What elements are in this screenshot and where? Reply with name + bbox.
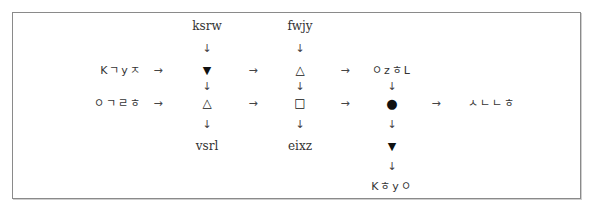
arrow-right-icon: →: [431, 98, 440, 109]
filled-circle-icon: ●: [386, 97, 397, 110]
input-top-col2: fwjy: [287, 20, 312, 32]
output-bottom-col2: eixz: [288, 140, 312, 152]
arrow-down-icon: ↓: [202, 81, 211, 92]
output-bottom-col1: vsrl: [196, 140, 219, 152]
arrow-right-icon: →: [153, 65, 162, 76]
arrow-right-icon: →: [248, 98, 257, 109]
arrow-right-icon: →: [340, 65, 349, 76]
hollow-square-icon: □: [294, 97, 305, 109]
output-row2-right: ㅅㄴㄴㅎ: [468, 98, 516, 109]
arrow-right-icon: →: [248, 65, 257, 76]
arrow-right-icon: →: [153, 98, 162, 109]
arrow-down-icon: ↓: [295, 43, 304, 54]
arrow-down-icon: ↓: [295, 81, 304, 92]
filled-down-triangle-icon: ▼: [203, 65, 211, 76]
input-row2-left: ㅇㄱㄹㅎ: [94, 98, 142, 109]
arrow-down-icon: ↓: [387, 161, 396, 172]
input-top-col1: ksrw: [192, 20, 221, 32]
arrow-down-icon: ↓: [387, 119, 396, 130]
input-row1-left: Kㄱyㅈ: [100, 65, 142, 76]
arrow-down-icon: ↓: [387, 81, 396, 92]
arrow-right-icon: →: [340, 98, 349, 109]
arrow-down-icon: ↓: [202, 43, 211, 54]
hollow-up-triangle-icon: △: [202, 97, 211, 109]
filled-down-triangle-icon: ▼: [388, 141, 396, 152]
hollow-up-triangle-icon: △: [295, 64, 304, 76]
output-row1-right: ㅇzㅎL: [372, 65, 412, 76]
output-bottom-col3: Kㅎyㅇ: [371, 181, 413, 192]
arrow-down-icon: ↓: [202, 119, 211, 130]
arrow-down-icon: ↓: [295, 119, 304, 130]
